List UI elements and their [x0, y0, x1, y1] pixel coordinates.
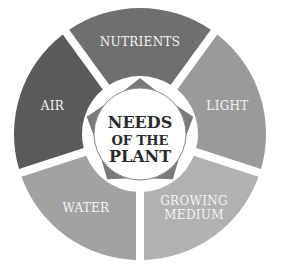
segment-label: NUTRIENTS — [100, 35, 181, 49]
center-title-line-1: NEEDS — [108, 113, 172, 132]
segment-label: MEDIUM — [164, 208, 224, 222]
segment-label: WATER — [62, 201, 110, 215]
segment-label: GROWING — [160, 194, 228, 208]
center-title-line-3: PLANT — [109, 147, 171, 166]
plant-needs-diagram: NUTRIENTSLIGHTGROWINGMEDIUMWATERAIR NEED… — [0, 0, 281, 272]
segment-label: LIGHT — [206, 99, 248, 113]
segment-label: AIR — [40, 99, 65, 113]
center-title-line-2: OF THE — [112, 133, 169, 148]
